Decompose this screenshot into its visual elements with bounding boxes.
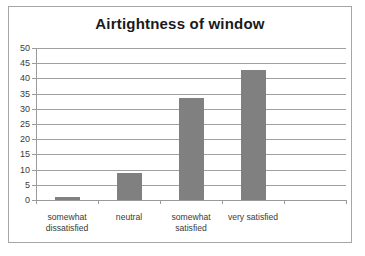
y-tick-label-50: 50	[20, 43, 30, 53]
x-tick-mark-1	[98, 200, 99, 204]
y-tick-mark-50	[32, 48, 36, 49]
y-tick-mark-15	[32, 154, 36, 155]
x-label-1: neutral	[98, 212, 160, 223]
bar-0[interactable]	[55, 197, 80, 200]
x-tick-mark-3	[222, 200, 223, 204]
y-tick-label-20: 20	[20, 134, 30, 144]
y-tick-mark-5	[32, 185, 36, 186]
x-tick-mark-2	[160, 200, 161, 204]
x-axis-labels: somewhatdissatisfiedneutralsomewhatsatis…	[36, 206, 346, 242]
x-label-2: somewhatsatisfied	[160, 212, 222, 234]
x-tick-mark-0	[36, 200, 37, 204]
y-tick-mark-45	[32, 63, 36, 64]
plot-area: 05101520253035404550	[36, 48, 346, 200]
y-tick-mark-40	[32, 78, 36, 79]
x-label-0: somewhatdissatisfied	[36, 212, 98, 234]
y-tick-mark-25	[32, 124, 36, 125]
x-label-line: satisfied	[160, 223, 222, 234]
x-tick-mark-4	[284, 200, 285, 204]
y-tick-label-40: 40	[20, 73, 30, 83]
x-label-line: dissatisfied	[36, 223, 98, 234]
y-tick-label-45: 45	[20, 58, 30, 68]
x-label-line: very satisfied	[222, 212, 284, 223]
gridline-0	[36, 200, 346, 201]
y-tick-mark-20	[32, 139, 36, 140]
x-label-line: somewhat	[160, 212, 222, 223]
y-tick-label-30: 30	[20, 104, 30, 114]
x-label-line: somewhat	[36, 212, 98, 223]
gridline-50	[36, 48, 346, 49]
x-tick-mark-5	[346, 200, 347, 204]
chart-figure: Airtightness of window 05101520253035404…	[8, 6, 352, 243]
bar-2[interactable]	[179, 98, 204, 200]
gridline-45	[36, 63, 346, 64]
y-tick-label-15: 15	[20, 149, 30, 159]
y-tick-label-35: 35	[20, 89, 30, 99]
bar-3[interactable]	[241, 70, 266, 200]
bar-1[interactable]	[117, 173, 142, 200]
y-tick-mark-35	[32, 94, 36, 95]
gridline-35	[36, 94, 346, 95]
chart-title: Airtightness of window	[9, 15, 351, 32]
y-tick-label-25: 25	[20, 119, 30, 129]
x-label-line: neutral	[98, 212, 160, 223]
y-tick-mark-30	[32, 109, 36, 110]
y-tick-label-5: 5	[25, 180, 30, 190]
x-label-3: very satisfied	[222, 212, 284, 223]
gridline-40	[36, 78, 346, 79]
y-tick-mark-10	[32, 170, 36, 171]
y-tick-label-0: 0	[25, 195, 30, 205]
y-tick-label-10: 10	[20, 165, 30, 175]
